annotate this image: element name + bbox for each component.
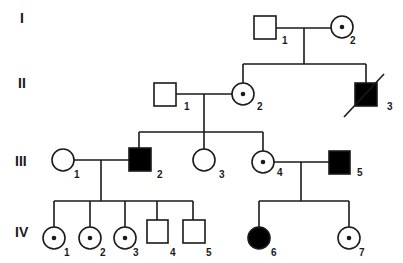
carrier-dot-icon bbox=[241, 92, 246, 97]
individual-IV-6-female-affected: 6 bbox=[248, 227, 277, 258]
individual-III-4-female-carrier: 4 bbox=[252, 151, 283, 178]
individual-IV-7-female-carrier: 7 bbox=[338, 227, 365, 258]
individual-II-3-male-affected-deceased: 3 bbox=[344, 74, 393, 117]
carrier-dot-icon bbox=[261, 160, 266, 165]
svg-text:2: 2 bbox=[157, 169, 163, 180]
svg-text:2: 2 bbox=[100, 247, 106, 258]
individual-III-2-male-affected: 2 bbox=[129, 148, 163, 180]
generation-label-I: I bbox=[20, 10, 24, 26]
generation-label-III: III bbox=[15, 153, 27, 169]
individual-IV-1-female-carrier: 1 bbox=[43, 227, 70, 258]
svg-text:2: 2 bbox=[257, 101, 263, 112]
individual-III-3-female-unaffected: 3 bbox=[193, 149, 225, 180]
svg-text:1: 1 bbox=[64, 247, 70, 258]
individual-IV-2-female-carrier: 2 bbox=[79, 227, 106, 258]
svg-text:2: 2 bbox=[350, 35, 356, 46]
individual-I-1-male-unaffected: 1 bbox=[254, 16, 288, 46]
mating-line-II bbox=[176, 94, 232, 132]
individual-IV-4-male-unaffected: 4 bbox=[147, 220, 176, 258]
svg-text:5: 5 bbox=[357, 167, 363, 178]
svg-text:7: 7 bbox=[359, 247, 365, 258]
generation-label-II: II bbox=[18, 75, 26, 91]
individual-I-2-female-carrier: 2 bbox=[331, 16, 356, 46]
svg-text:3: 3 bbox=[219, 169, 225, 180]
svg-text:5: 5 bbox=[206, 247, 212, 258]
generation-label-IV: IV bbox=[15, 224, 29, 240]
mating-line-I bbox=[276, 28, 331, 64]
carrier-dot-icon bbox=[52, 236, 57, 241]
individual-IV-3-female-carrier: 3 bbox=[114, 227, 139, 258]
pedigree-chart: I II III IV 1 2 1 2 3 bbox=[0, 0, 403, 263]
individual-III-1-female-unaffected: 1 bbox=[52, 149, 80, 180]
carrier-dot-icon bbox=[88, 236, 93, 241]
svg-text:6: 6 bbox=[271, 247, 277, 258]
svg-text:4: 4 bbox=[277, 167, 283, 178]
carrier-dot-icon bbox=[347, 236, 352, 241]
svg-text:4: 4 bbox=[170, 247, 176, 258]
svg-text:1: 1 bbox=[74, 169, 80, 180]
svg-text:3: 3 bbox=[387, 101, 393, 112]
individual-IV-5-male-unaffected: 5 bbox=[183, 220, 212, 258]
svg-text:1: 1 bbox=[282, 35, 288, 46]
individual-II-2-female-carrier: 2 bbox=[232, 83, 263, 112]
carrier-dot-icon bbox=[340, 25, 345, 30]
svg-text:3: 3 bbox=[133, 247, 139, 258]
individual-II-1-male-unaffected: 1 bbox=[154, 83, 190, 112]
svg-text:1: 1 bbox=[184, 101, 190, 112]
individual-III-5-male-affected: 5 bbox=[329, 151, 363, 178]
mating-line-III-left bbox=[74, 160, 129, 201]
deceased-slash-icon bbox=[344, 74, 384, 117]
carrier-dot-icon bbox=[123, 236, 128, 241]
